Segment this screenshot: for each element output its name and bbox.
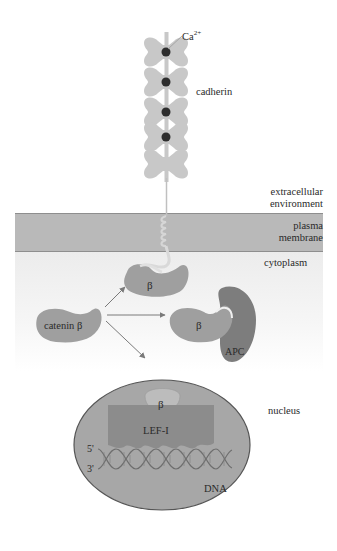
arrow-to-nucleus: [106, 321, 145, 358]
cadherin-label: cadherin: [196, 86, 232, 98]
catenin-beta-label: catenin β: [44, 320, 82, 332]
apc-label: APC: [225, 346, 244, 358]
plasma-membrane-label: plasma membrane: [279, 220, 323, 244]
apc-beta-label: β: [196, 319, 202, 331]
cytoplasm-label: cytoplasm: [264, 257, 307, 269]
pathway-diagram: [0, 0, 337, 551]
arrow-to-membrane: [105, 287, 125, 307]
nucleus-label: nucleus: [268, 405, 300, 417]
lef1-label: LEF-I: [143, 425, 169, 437]
membrane-beta-label: β: [147, 279, 153, 291]
calcium-label: Ca2+: [182, 27, 201, 43]
dna-label: DNA: [204, 483, 227, 495]
nucleus-beta-label: β: [158, 398, 164, 410]
three-prime-label: 3': [87, 463, 94, 475]
pathway-arrows: [105, 287, 165, 358]
extracellular-label: extracellular environment: [270, 186, 323, 210]
five-prime-label: 5': [87, 443, 94, 455]
cadherin-protein: [139, 32, 188, 274]
